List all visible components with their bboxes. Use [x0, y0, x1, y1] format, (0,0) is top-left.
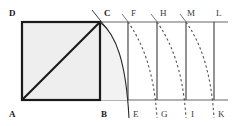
curve-H-to-I	[157, 22, 186, 118]
vertex-label-D: D	[9, 9, 16, 18]
curve-F-to-G	[128, 22, 157, 118]
vertex-label-H: H	[160, 9, 167, 18]
vertex-label-L: L	[216, 9, 222, 18]
vertex-label-C: C	[104, 9, 111, 18]
vertex-label-I: I	[191, 110, 194, 119]
vertex-label-K: K	[218, 110, 225, 119]
geometric-figure-container: D C F H M L A B E G I K	[0, 0, 232, 126]
shaded-arc-region	[100, 22, 128, 100]
vertex-label-E: E	[133, 110, 139, 119]
curve-M-to-K	[186, 22, 214, 118]
vertex-label-F: F	[131, 9, 136, 18]
vertex-label-A: A	[9, 110, 16, 119]
vertex-label-G: G	[161, 110, 168, 119]
figure-canvas	[0, 0, 232, 126]
vertex-label-B: B	[101, 110, 107, 119]
vertex-label-M: M	[187, 9, 195, 18]
